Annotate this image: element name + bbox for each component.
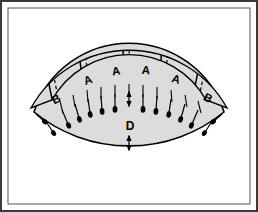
figure-frame: B A A A A B D	[0, 0, 258, 212]
segment-label-a-2: A	[111, 64, 121, 77]
core-label: D	[126, 119, 135, 133]
segment-label-a-3: A	[141, 64, 150, 77]
arch-diagram: B A A A A B D	[0, 0, 258, 212]
